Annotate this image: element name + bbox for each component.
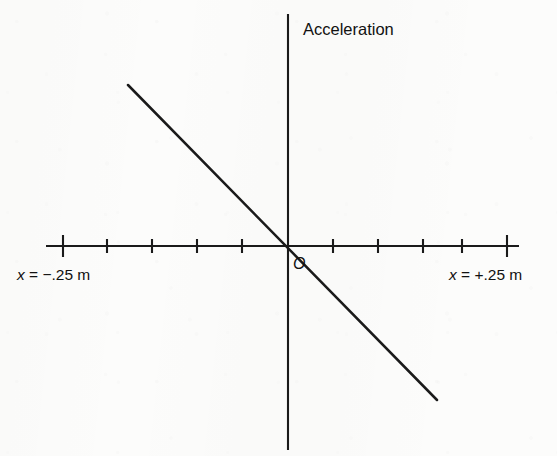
chart-title: Acceleration <box>303 21 394 38</box>
x-axis-max-label: x = +.25 m <box>449 267 522 283</box>
plot-canvas <box>0 0 557 456</box>
origin-label: O <box>293 256 305 272</box>
acceleration-data-line <box>128 85 437 400</box>
acceleration-vs-displacement-figure: Acceleration x = −.25 m x = +.25 m O <box>0 0 557 456</box>
displacement-variable-symbol: x <box>449 266 457 283</box>
x-axis-min-label: x = −.25 m <box>17 267 90 283</box>
displacement-variable-symbol: x <box>17 266 25 283</box>
